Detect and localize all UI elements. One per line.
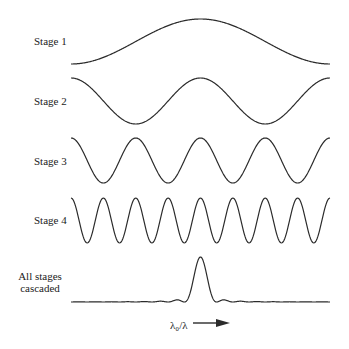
stage-1-curve [71,19,330,64]
x-axis-label: λ₀/λ [170,319,188,331]
right-arrow-icon [193,319,230,327]
cascaded-curve [71,257,330,302]
stage-2-curve [71,78,330,124]
waveforms [0,0,349,349]
stage-4-curve [71,198,330,243]
stage-3-curve [71,138,330,183]
